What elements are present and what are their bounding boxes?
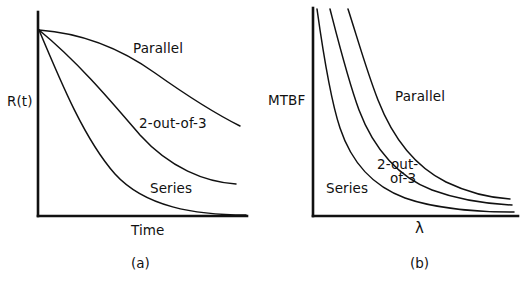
panel-a-label-2-out-of-3: 2-out-of-3 (139, 116, 207, 130)
panel-b-label-parallel: Parallel (395, 89, 445, 103)
panel-a-label-parallel: Parallel (133, 41, 183, 55)
panel-b-curve-parallel (348, 9, 510, 199)
panel-b-label-series: Series (326, 181, 368, 195)
panel-a: R(t) Time Parallel 2-out-of-3 Series (a) (0, 0, 260, 288)
panel-a-x-axis-label: Time (131, 223, 164, 237)
panel-a-plot (0, 0, 260, 288)
panel-b-caption: (b) (410, 255, 429, 271)
panel-a-caption: (a) (131, 255, 150, 271)
panel-b-plot (260, 0, 520, 288)
panel-a-y-axis-label: R(t) (7, 94, 33, 108)
figure-container: R(t) Time Parallel 2-out-of-3 Series (a)… (0, 0, 520, 288)
panel-a-label-series: Series (150, 181, 192, 195)
panel-b-label-2-out-line2: of-3 (390, 171, 416, 185)
panel-b-y-axis-label: MTBF (268, 93, 305, 107)
panel-b-x-axis-label: λ (415, 221, 424, 237)
panel-b: MTBF λ Parallel 2-out- of-3 Series (b) (260, 0, 520, 288)
